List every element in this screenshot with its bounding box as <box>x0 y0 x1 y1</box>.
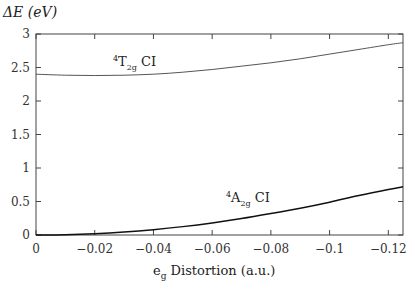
x-tick-label: −0.04 <box>135 242 172 256</box>
annotation-t2g-sub: 2g <box>127 63 137 72</box>
x-tick-label: −0.06 <box>194 242 231 256</box>
x-tick-label: −0.08 <box>252 242 289 256</box>
annotation-a2g: 4A2g CI <box>226 190 270 208</box>
y-tick-label: 1.5 <box>11 128 30 142</box>
annotation-t2g-main: T <box>118 54 127 69</box>
x-tick-label: 0 <box>32 242 40 256</box>
tick-labels: 0−0.02−0.04−0.06−0.08−0.1−0.1200.511.522… <box>11 27 407 256</box>
x-tick-label: −0.12 <box>370 242 407 256</box>
y-tick-label: 0.5 <box>11 195 30 209</box>
annotation-a2g-rest: CI <box>251 190 270 205</box>
plot-frame <box>36 34 403 235</box>
x-tick-label: −0.1 <box>315 242 344 256</box>
y-tick-label: 1 <box>22 161 30 175</box>
x-axis-label-e: e <box>153 263 161 278</box>
curve-a2g <box>36 187 403 235</box>
y-tick-label: 0 <box>22 228 30 242</box>
annotation-t2g-rest: CI <box>137 54 156 69</box>
y-tick-label: 3 <box>22 27 30 41</box>
axis-ticks <box>36 34 403 235</box>
annotation-a2g-sub: 2g <box>240 199 250 208</box>
x-axis-label-rest: Distortion (a.u.) <box>166 263 275 278</box>
x-axis-label: eg Distortion (a.u.) <box>153 263 275 281</box>
x-tick-label: −0.02 <box>76 242 113 256</box>
chart-plot-area: 0−0.02−0.04−0.06−0.08−0.1−0.1200.511.522… <box>0 0 415 291</box>
curve-t2g <box>36 43 403 76</box>
annotation-t2g: 4T2g CI <box>113 54 156 72</box>
data-curves <box>36 43 403 235</box>
y-tick-label: 2.5 <box>11 61 30 75</box>
y-axis-label-text: ΔE (eV) <box>3 4 57 20</box>
y-axis-label: ΔE (eV) <box>3 4 57 20</box>
y-tick-label: 2 <box>22 94 30 108</box>
